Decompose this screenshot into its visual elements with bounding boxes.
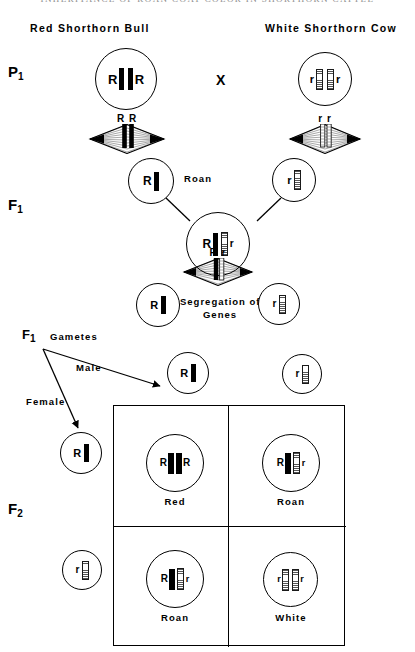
punnett-cell-0-0-contents: R R — [147, 435, 203, 491]
chromosome-dominant-icon — [168, 453, 173, 474]
chromosome-dominant-icon — [176, 453, 181, 474]
diagram-canvas: INHERITANCE OF ROAN COAT COLOR IN SHORTH… — [0, 0, 415, 652]
gamete-male-r-cell: r — [282, 354, 322, 394]
punnett-cell-1-1-phenotype: White — [261, 612, 321, 623]
punnett-cell-1-0-right-allele: r — [186, 575, 190, 584]
punnett-cell-0-0-right-allele: R — [183, 458, 190, 468]
punnett-cell-0-0-left-allele: R — [160, 458, 167, 468]
chromosome-dominant-icon — [285, 453, 290, 474]
gamete-male-R-contents: R — [168, 353, 208, 393]
chromosome-recessive-icon — [82, 561, 89, 580]
chromosome-recessive-icon — [302, 365, 309, 384]
punnett-cell-1-1-contents: r r — [264, 553, 317, 606]
punnett-cell-1-0-phenotype: Roan — [145, 612, 205, 623]
punnett-cell-1-1-right-allele: r — [300, 575, 304, 584]
chromosome-recessive-icon — [282, 569, 289, 591]
punnett-cell-1-0-contents: R r — [147, 551, 203, 607]
gamete-male-r-contents: r — [283, 355, 321, 393]
gamete-female-r-cell: r — [62, 550, 102, 590]
gametes-female-label: Female — [26, 396, 65, 407]
punnett-cell-1-1-left-allele: r — [277, 575, 281, 584]
gametes-male-label: Male — [76, 362, 102, 373]
gamete-female-R-allele: R — [73, 448, 81, 459]
punnett-cell-0-1-left-allele: R — [277, 458, 284, 468]
punnett-cell-offspring-1-0: R r — [146, 550, 204, 608]
chromosome-recessive-icon — [292, 569, 299, 591]
gamete-female-r-contents: r — [63, 551, 101, 589]
chromosome-dominant-icon — [191, 364, 196, 382]
chromosome-dominant-icon — [84, 444, 89, 462]
punnett-cell-offspring-0-0: R R — [146, 434, 204, 492]
punnett-cell-offspring-0-1: R r — [262, 434, 320, 492]
gamete-female-r-allele: r — [76, 565, 80, 575]
punnett-cell-0-1-contents: R r — [263, 435, 319, 491]
gamete-male-r-allele: r — [296, 369, 300, 379]
gamete-female-R-contents: R — [61, 433, 101, 473]
chromosome-dominant-icon — [169, 569, 174, 590]
gamete-female-R-cell: R — [60, 432, 102, 474]
chromosome-recessive-icon — [177, 568, 184, 590]
gamete-male-R-cell: R — [167, 352, 209, 394]
punnett-horizontal-divider — [114, 526, 346, 527]
punnett-cell-0-0-phenotype: Red — [145, 496, 205, 507]
gamete-male-R-allele: R — [180, 368, 188, 379]
punnett-cell-offspring-1-1: r r — [263, 552, 318, 607]
punnett-cell-0-1-right-allele: r — [302, 459, 306, 468]
punnett-cell-1-0-left-allele: R — [161, 574, 168, 584]
chromosome-recessive-icon — [293, 452, 300, 474]
punnett-cell-0-1-phenotype: Roan — [261, 496, 321, 507]
